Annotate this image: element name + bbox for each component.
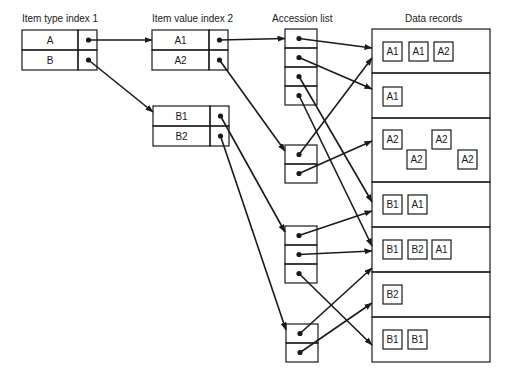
record-item-label: A2 bbox=[461, 154, 474, 165]
pointer-dot bbox=[218, 113, 223, 118]
pointer-dot bbox=[296, 55, 301, 60]
record-item-label: B1 bbox=[386, 334, 399, 345]
pointer-dot bbox=[296, 171, 301, 176]
pointer-dot bbox=[217, 57, 222, 62]
index1-key-label: B bbox=[47, 55, 54, 66]
index-diagram: ABA1A2B1B2A1A1A2A1A2A2A2A2B1A1B1B2A1B2B1… bbox=[0, 0, 510, 385]
pointer-dot bbox=[296, 36, 301, 41]
index2-key-label: A2 bbox=[174, 55, 187, 66]
pointer-dot bbox=[296, 252, 301, 257]
index2-key-label: A1 bbox=[174, 35, 187, 46]
record-item-label: B1 bbox=[386, 199, 399, 210]
pointer-dot bbox=[217, 37, 222, 42]
index2-to-accession-arrow bbox=[221, 116, 286, 232]
pointer-dot bbox=[296, 271, 301, 276]
index2-key-label: B2 bbox=[175, 131, 188, 142]
record-item-label: B2 bbox=[386, 289, 399, 300]
pointer-dot bbox=[296, 152, 301, 157]
accession-to-record-arrow bbox=[299, 251, 372, 255]
record-item-label: A2 bbox=[386, 134, 399, 145]
pointer-dot bbox=[297, 331, 302, 336]
index2-to-accession-arrow bbox=[220, 39, 286, 41]
index2-key-label: B1 bbox=[175, 111, 188, 122]
record-item-label: A1 bbox=[412, 46, 425, 57]
record-item-label: A1 bbox=[386, 91, 399, 102]
accession-to-record-arrow bbox=[299, 39, 372, 49]
pointer-dot bbox=[297, 350, 302, 355]
pointer-dot bbox=[218, 133, 223, 138]
record-item-label: B2 bbox=[411, 244, 424, 255]
record-item-label: A2 bbox=[410, 154, 423, 165]
record-item-label: A2 bbox=[437, 46, 450, 57]
record-item-label: A1 bbox=[411, 199, 424, 210]
record-item-label: A1 bbox=[435, 244, 448, 255]
pointer-dot bbox=[86, 37, 91, 42]
pointer-dot bbox=[296, 74, 301, 79]
record-item-label: A1 bbox=[386, 46, 399, 57]
accession-to-record-arrow bbox=[299, 274, 372, 346]
record-item-label: B1 bbox=[411, 334, 424, 345]
index1-to-index2-arrow bbox=[89, 60, 154, 112]
record-item-label: B1 bbox=[386, 244, 399, 255]
index1-key-label: A bbox=[47, 35, 54, 46]
pointer-dot bbox=[296, 93, 301, 98]
record-item-label: A2 bbox=[435, 134, 448, 145]
pointer-dot bbox=[296, 233, 301, 238]
accession-to-record-arrow bbox=[299, 141, 372, 174]
pointer-dot bbox=[86, 57, 91, 62]
index2-to-accession-arrow bbox=[221, 136, 287, 330]
